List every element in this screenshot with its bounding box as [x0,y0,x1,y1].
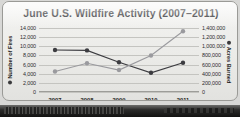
data-point [181,29,185,33]
right-axis-tick-label: 1,000,000 [202,43,225,49]
left-axis-tick-label: 2,000 [23,80,36,86]
x-axis-tick-label: 2007 [49,97,62,101]
left-axis-tick-label: 8,000 [23,52,36,58]
x-axis-tick-label: 2009 [113,97,126,101]
right-axis-tick-label: 800,000 [202,52,221,58]
data-point [53,69,57,73]
data-point [117,68,121,72]
right-axis-tick-label: 1,400,000 [202,25,225,31]
chart-title: June U.S. Wildfire Activity (2007–2011) [3,7,238,19]
left-axis-title: Number of Fires [7,36,13,85]
series-line-acres-burned [55,31,183,71]
left-series-marker-icon [8,80,12,84]
chart-card: June U.S. Wildfire Activity (2007–2011) … [2,1,238,101]
right-axis-title: Acres Burned [226,41,232,84]
data-point [85,61,89,65]
data-point [53,48,57,52]
left-axis-tick-label: 10,000 [20,43,36,49]
left-axis-tick-label: 4,000 [23,71,36,77]
x-axis-tick-label: 2011 [177,97,190,101]
data-point [85,48,89,52]
right-axis-tick-label: 200,000 [202,80,221,86]
left-axis-tick-label: 6,000 [23,62,36,68]
x-axis-tick-label: 2010 [145,97,158,101]
right-axis-tick-label: 0 [202,89,205,95]
right-axis-title-label: Acres Burned [226,47,232,84]
data-point [117,60,121,64]
right-axis-tick-label: 600,000 [202,62,221,68]
data-point [149,71,153,75]
gridline [39,92,199,93]
left-axis-tick-label: 0 [33,89,36,95]
page-edge-texture-left [4,107,124,114]
data-point [181,61,185,65]
x-axis-tick-label: 2008 [81,97,94,101]
left-axis-title-label: Number of Fires [7,36,13,79]
chart-screenshot: June U.S. Wildfire Activity (2007–2011) … [0,0,240,117]
page-edge-texture-right [164,108,234,113]
left-axis-tick-label: 12,000 [20,34,36,40]
page-edge-strip [0,105,240,117]
right-series-marker-icon [227,41,231,45]
data-point [149,53,153,57]
right-axis-tick-label: 400,000 [202,71,221,77]
left-axis-tick-label: 14,000 [20,25,36,31]
right-axis-tick-label: 1,200,000 [202,34,225,40]
series-lines [39,28,199,92]
plot-area: 02,0004,0006,0008,00010,00012,00014,000 … [39,28,199,92]
